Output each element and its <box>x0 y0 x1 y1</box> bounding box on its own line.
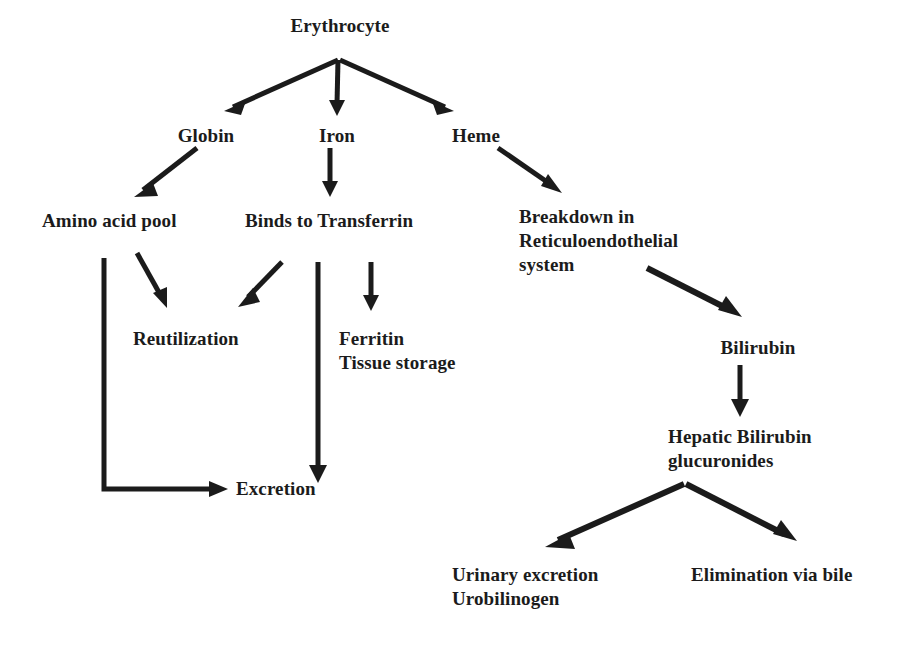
edge-heme-to-breakdown-res <box>498 148 562 193</box>
edge-amino-acid-pool-to-reutilization <box>137 253 167 308</box>
node-bilirubin: Bilirubin <box>721 336 796 360</box>
node-urinary-excretion-urobilinogen: Urinary excretion Urobilinogen <box>452 563 598 611</box>
node-erythrocyte: Erythrocyte <box>291 14 390 38</box>
edge-erythrocyte-to-globin <box>224 60 338 115</box>
edge-transferrin-to-ferritin <box>363 262 379 311</box>
flowchart-diagram: Erythrocyte Globin Iron Heme Amino acid … <box>0 0 918 651</box>
node-elimination-via-bile: Elimination via bile <box>691 563 852 587</box>
edge-globin-to-amino-acid-pool <box>134 148 197 197</box>
edge-iron-to-binds-to-transferrin <box>322 148 338 197</box>
node-excretion: Excretion <box>236 477 316 501</box>
node-amino-acid-pool: Amino acid pool <box>42 209 177 233</box>
edge-transferrin-to-excretion <box>309 262 327 483</box>
edge-erythrocyte-to-iron <box>329 60 345 116</box>
node-heme: Heme <box>452 124 500 148</box>
node-binds-to-transferrin: Binds to Transferrin <box>245 209 413 233</box>
node-reutilization: Reutilization <box>133 327 239 351</box>
edge-transferrin-to-reutilization <box>238 262 282 307</box>
node-hepatic-bilirubin-glucuronides: Hepatic Bilirubin glucuronides <box>668 425 812 473</box>
edge-erythrocyte-to-heme <box>340 60 454 115</box>
node-breakdown-reticuloendothelial-system: Breakdown in Reticuloendothelial system <box>519 205 678 277</box>
arrow-layer <box>0 0 918 651</box>
edge-glucuronides-to-urinary-excretion <box>545 484 684 549</box>
node-iron: Iron <box>319 124 355 148</box>
node-globin: Globin <box>178 124 235 148</box>
edge-glucuronides-to-elimination-via-bile <box>686 484 797 541</box>
edge-bilirubin-to-hepatic-glucuronides <box>731 365 749 417</box>
node-ferritin-tissue-storage: Ferritin Tissue storage <box>339 327 456 375</box>
